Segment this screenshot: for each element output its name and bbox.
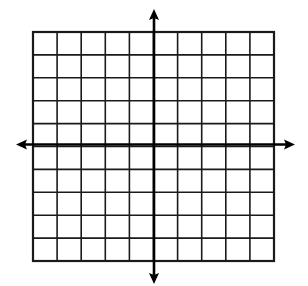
coordinate-grid: [0, 0, 308, 286]
